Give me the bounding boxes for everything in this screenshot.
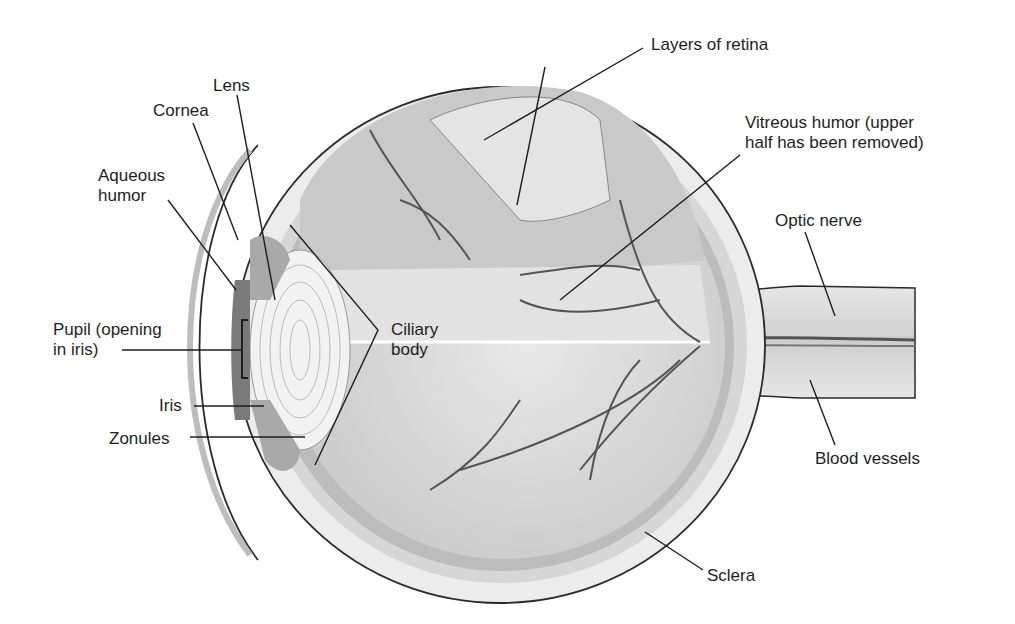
label-pupil: Pupil (opening in iris) [53,320,162,360]
eye-diagram [0,0,1015,624]
label-lens: Lens [213,76,250,96]
label-zonules: Zonules [109,429,169,449]
label-aqueous-humor: Aqueous humor [98,166,165,206]
label-optic-nerve: Optic nerve [775,211,862,231]
label-blood-vessels: Blood vessels [815,449,920,469]
label-ciliary-body: Ciliary body [391,320,438,360]
label-iris: Iris [159,396,182,416]
label-cornea: Cornea [153,101,209,121]
label-layers-of-retina: Layers of retina [651,35,768,55]
label-sclera: Sclera [707,566,755,586]
label-vitreous-humor: Vitreous humor (upper half has been remo… [745,113,924,153]
